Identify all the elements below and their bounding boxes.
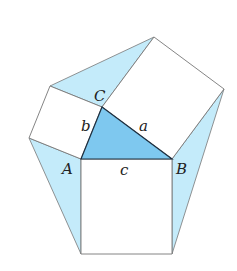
vertex-label-c: C (94, 87, 106, 105)
side-label-c: c (120, 161, 129, 179)
pythagorean-diagram: C A B b a c (0, 0, 237, 271)
side-label-b: b (81, 117, 91, 135)
vertex-label-a: A (60, 160, 73, 178)
side-label-a: a (139, 117, 148, 135)
vertex-label-b: B (175, 160, 187, 178)
